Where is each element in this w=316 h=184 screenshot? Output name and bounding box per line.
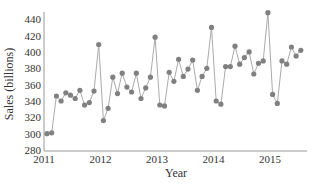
data-point-marker [289,44,294,49]
data-point-marker [190,58,195,63]
y-axis: 280300320340360380400420440 Sales (billi… [2,12,44,156]
data-point-marker [171,79,176,84]
data-point-marker [162,103,167,108]
x-tick-label: 2013 [146,153,169,165]
y-tick-label: 400 [25,46,42,58]
data-point-marker [148,75,153,80]
y-tick-labels: 280300320340360380400420440 [25,13,42,156]
data-point-marker [237,62,242,67]
data-point-marker [232,44,237,49]
data-point-marker [279,58,284,63]
data-point-marker [294,53,299,58]
y-tick-label: 320 [25,111,42,123]
x-tick-label: 2015 [259,153,282,165]
y-axis-label: Sales (billions) [2,48,16,120]
data-point-marker [101,118,106,123]
plot-area [44,10,303,136]
data-point-marker [91,89,96,94]
x-tick-label: 2011 [33,153,55,165]
data-point-marker [77,88,82,93]
data-point-marker [228,64,233,69]
data-point-marker [106,106,111,111]
data-point-marker [214,98,219,103]
data-point-marker [124,85,129,90]
data-point-marker [251,71,256,76]
x-axis-label: Year [165,166,187,180]
y-tick-label: 340 [25,95,42,107]
data-point-marker [181,74,186,79]
data-point-marker [209,25,214,30]
data-point-marker [120,71,125,76]
data-point-marker [63,90,68,95]
data-point-marker [261,58,266,63]
data-point-marker [54,93,59,98]
x-axis: 20112012201320142015 Year [33,151,307,180]
sales-line-chart: 280300320340360380400420440 Sales (billi… [0,0,316,184]
data-point-marker [68,93,73,98]
data-point-marker [167,70,172,75]
x-tick-label: 2014 [203,153,226,165]
data-point-marker [242,55,247,60]
x-tick-labels: 20112012201320142015 [33,153,281,165]
data-point-marker [82,102,87,107]
data-point-marker [96,42,101,47]
data-point-marker [185,67,190,72]
data-point-marker [59,98,64,103]
data-point-marker [134,71,139,76]
sales-series-line [47,13,301,134]
y-tick-label: 420 [25,30,42,42]
y-tick-label: 380 [25,62,42,74]
data-point-marker [200,74,205,79]
data-point-marker [265,10,270,15]
data-point-marker [110,75,115,80]
data-point-marker [157,102,162,107]
data-point-marker [129,89,134,94]
data-point-marker [218,102,223,107]
data-point-marker [143,85,148,90]
data-point-marker [298,48,303,53]
data-point-marker [275,101,280,106]
data-point-marker [49,130,54,135]
data-point-marker [176,57,181,62]
data-point-marker [247,49,252,54]
data-point-marker [195,88,200,93]
data-point-marker [284,62,289,67]
data-point-marker [270,92,275,97]
data-point-marker [73,96,78,101]
y-tick-label: 440 [25,13,42,25]
data-point-marker [153,35,158,40]
data-point-marker [256,61,261,66]
x-tick-label: 2012 [90,153,112,165]
data-point-marker [204,66,209,71]
y-tick-label: 360 [25,79,42,91]
data-point-marker [223,64,228,69]
data-point-marker [115,91,120,96]
data-point-marker [87,100,92,105]
y-tick-label: 300 [25,128,42,140]
sales-series-markers [44,10,303,136]
data-point-marker [138,96,143,101]
data-point-marker [44,131,49,136]
